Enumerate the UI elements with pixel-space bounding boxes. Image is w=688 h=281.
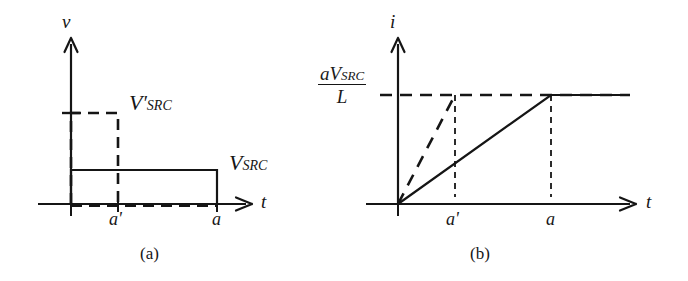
figure-container: v t a' a V′SRC VSRC (a) i t a' a aVSRC L… [0, 0, 688, 281]
panel-a-dashed-series-label: V′SRC [129, 92, 172, 114]
panel-b-ylevel-fraction: aVSRC L [318, 64, 366, 106]
panel-b-plot [366, 38, 636, 216]
panel-b-ylevel-numerator: aVSRC [318, 64, 366, 85]
panel-b-y-axis-label: i [390, 12, 395, 31]
panel-a-dashed-series-label-main: V [129, 90, 142, 115]
figure-svg [0, 0, 688, 281]
panel-a-plot [38, 38, 252, 216]
panel-a-dashed-series-label-sub: SRC [147, 98, 172, 113]
panel-b-xtick-label-a: a [546, 210, 555, 228]
panel-b-x-axis-label: t [646, 192, 651, 211]
panel-b-x-axis [366, 198, 636, 211]
panel-a-y-axis-label: v [62, 12, 70, 31]
panel-a-solid-series-label: VSRC [229, 152, 267, 174]
panel-b-solid-ramp [398, 95, 630, 204]
panel-a-solid-series-label-main: V [229, 150, 242, 175]
panel-a-dashed-waveform [71, 113, 118, 204]
panel-a-xtick-label-a: a [212, 210, 221, 228]
panel-a-solid-series-label-sub: SRC [242, 158, 267, 173]
panel-b-ylevel-numerator-main: aV [320, 63, 341, 84]
panel-a-solid-waveform [71, 170, 217, 204]
panel-b-xtick-label-aprime: a' [446, 210, 459, 228]
panel-a-caption: (a) [140, 244, 159, 264]
panel-b-caption: (b) [470, 244, 490, 264]
panel-b-ylevel-denominator: L [318, 85, 366, 106]
panel-b-ylevel-numerator-sub: SRC [341, 68, 364, 83]
panel-a-x-axis-label: t [261, 192, 266, 211]
panel-b-dashed-ramp [398, 95, 455, 204]
panel-a-xtick-label-aprime: a' [109, 210, 122, 228]
panel-b-y-axis [392, 38, 405, 204]
